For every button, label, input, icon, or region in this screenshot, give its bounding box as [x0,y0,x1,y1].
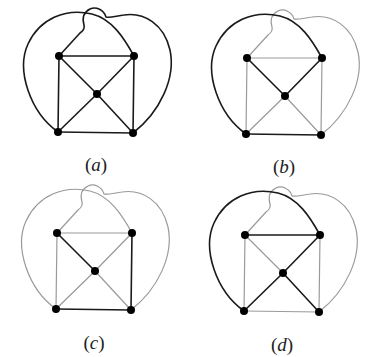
vertex-tr [128,229,136,237]
vertex-c [93,90,101,98]
vertex-br [317,131,325,139]
panel-label-a-text: a [91,154,101,175]
edge-br-c [95,271,131,310]
vertex-c [281,92,289,100]
edge-bl-c [56,271,95,309]
vertex-bl [240,307,248,315]
vertex-c [279,269,287,277]
vertex-bl [242,130,250,138]
edge-bl-br [56,309,131,310]
vertex-tl [241,231,249,239]
edge-bl-br [246,134,321,135]
panel-b [212,10,360,139]
edge-br-c [97,94,133,133]
edge-tr-br [319,235,320,312]
edge-tr-c [285,58,322,96]
edge-tr-br [133,56,134,133]
edge-tr-br [131,233,132,310]
edge-bl-br [58,132,133,133]
edge-tl-bl [56,233,57,309]
edge-bl-c [244,273,283,311]
edge-tl-c [245,235,283,273]
edge-tr-c [95,233,132,271]
edge-tl-bl [246,58,247,134]
edge-bl-br [244,311,319,312]
panel-label-a: (a) [85,154,107,176]
edge-tr-c [97,56,134,94]
edge-br-c [285,96,321,135]
vertex-br [315,308,323,316]
vertex-br [127,306,135,314]
edge-tl-bl [58,56,59,132]
panel-label-b-text: b [279,156,289,177]
vertex-br [129,129,137,137]
edge-br-c [283,273,319,312]
graph-figure [0,0,380,357]
panel-label-d-text: d [277,334,287,355]
panel-label-b: (b) [273,156,295,178]
edge-tr-c [283,235,320,273]
vertex-bl [54,128,62,136]
edge-tl-bl [244,235,245,311]
panel-c [22,185,170,314]
edge-bl-c [246,96,285,134]
edge-bl-c [58,94,97,132]
vertex-tl [243,54,251,62]
vertex-bl [52,305,60,313]
panel-a [24,8,172,137]
vertex-tl [55,52,63,60]
edge-tl-c [57,233,95,271]
edge-tl-c [59,56,97,94]
vertex-c [91,267,99,275]
panel-label-c-text: c [90,332,98,353]
vertex-tl [53,229,61,237]
panel-label-d: (d) [271,334,293,356]
vertex-tr [316,231,324,239]
panel-label-c: (c) [83,332,104,354]
edge-tr-br [321,58,322,135]
vertex-tr [130,52,138,60]
panel-d [210,187,358,316]
vertex-tr [318,54,326,62]
edge-tl-c [247,58,285,96]
